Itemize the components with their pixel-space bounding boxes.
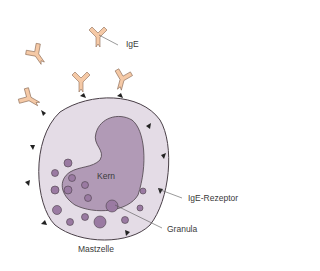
label-mastzelle: Mastzelle	[78, 244, 114, 254]
label-granula: Granula	[167, 224, 197, 234]
label-ige: IgE	[126, 39, 139, 49]
label-kern: Kern	[97, 171, 115, 181]
label-ige-rezeptor: IgE-Rezeptor	[188, 193, 238, 203]
